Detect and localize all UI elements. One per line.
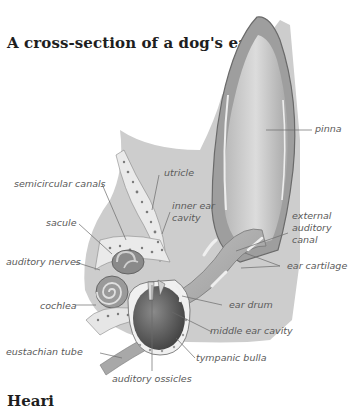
cochlea <box>96 276 128 308</box>
label-auditory-nerves: auditory nerves <box>6 256 81 268</box>
label-middle-ear-cavity: middle ear cavity <box>210 325 293 337</box>
label-pinna: pinna <box>315 123 342 135</box>
section-heading-partial: Heari <box>7 392 54 410</box>
label-semicircular-canals: semicircular canals <box>14 178 106 190</box>
label-inner-ear-cavity: inner ear cavity <box>172 200 216 224</box>
label-ear-drum: ear drum <box>229 299 273 311</box>
label-external-auditory-canal: external auditory canal <box>292 210 344 246</box>
label-eustachian-tube: eustachian tube <box>6 346 83 358</box>
label-ear-cartilage: ear cartilage <box>287 260 347 272</box>
label-utricle: utricle <box>164 167 194 179</box>
label-tympanic-bulla: tympanic bulla <box>196 352 267 364</box>
label-sacule: sacule <box>46 217 77 229</box>
pinna <box>212 17 295 262</box>
label-auditory-ossicles: auditory ossicles <box>112 373 192 385</box>
semicircular-canals <box>112 250 144 274</box>
label-cochlea: cochlea <box>40 300 77 312</box>
